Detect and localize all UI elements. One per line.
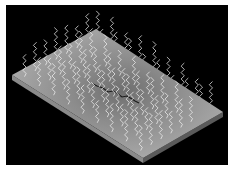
illustration — [0, 0, 234, 180]
